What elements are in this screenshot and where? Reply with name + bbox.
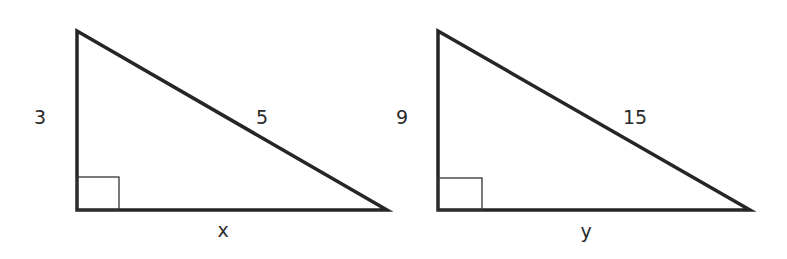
right-angle-marker-1 [77, 177, 119, 210]
right-angle-marker-2 [438, 178, 482, 210]
triangle-1 [77, 31, 387, 210]
triangle-1-vertical-leg-label: 3 [34, 108, 46, 127]
triangle-1-hypotenuse-label: 5 [256, 108, 268, 127]
triangle-2 [438, 31, 750, 210]
diagram-canvas [0, 0, 787, 259]
triangle-2-vertical-leg-label: 9 [396, 108, 408, 127]
triangle-2-hypotenuse-label: 15 [623, 108, 647, 127]
triangle-1-base-label: x [217, 221, 228, 240]
triangle-2-base-label: y [580, 222, 591, 241]
